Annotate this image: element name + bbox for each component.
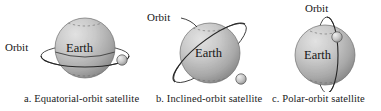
caption-equatorial-orbit-satellite: a. Equatorial-orbit satellite (24, 93, 139, 104)
panel-polar-orbit: Orbit (258, 0, 381, 92)
orbit-leader-line (181, 18, 197, 27)
orbit-label: Orbit (305, 2, 328, 14)
panel-equatorial-orbit: Orbit (0, 0, 140, 92)
orbit-label: Orbit (147, 11, 170, 23)
inclined-orbit-diagram: Orbit (133, 0, 257, 92)
polar-orbit-diagram: Orbit (258, 0, 381, 92)
satellite-icon (332, 32, 342, 42)
satellite-icon (236, 74, 246, 84)
earth-sphere (55, 18, 115, 78)
panel-inclined-orbit: Orbit (133, 0, 257, 92)
satellite-orbit-figure: Orbit (0, 0, 381, 111)
equatorial-orbit-diagram: Orbit (0, 0, 140, 92)
satellite-icon (117, 55, 127, 65)
earth-sphere (180, 23, 240, 83)
caption-inclined-orbit-satellite: b. Inclined-orbit satellite (156, 93, 262, 104)
caption-polar-orbit-satellite: c. Polar-orbit satellite (272, 93, 365, 104)
orbit-label: Orbit (5, 41, 28, 53)
caption-row: a. Equatorial-orbit satellite b. Incline… (0, 93, 381, 111)
